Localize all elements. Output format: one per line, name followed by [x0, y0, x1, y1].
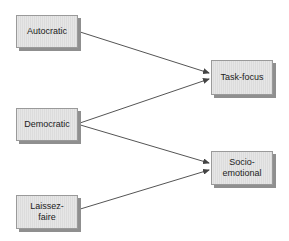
edge-democratic-socio-emotional	[77, 124, 209, 163]
node-label: Autocratic	[27, 26, 67, 37]
node-label: Socio- emotional	[222, 157, 261, 179]
node-democratic: Democratic	[16, 108, 78, 141]
node-laissez-faire: Laissez- faire	[16, 195, 78, 229]
node-socio-emotional: Socio- emotional	[211, 151, 273, 185]
edge-democratic-task-focus	[77, 79, 209, 124]
node-label: Laissez- faire	[30, 201, 64, 223]
edge-autocratic-task-focus	[77, 31, 209, 73]
edge-laissez-faire-socio-emotional	[77, 170, 209, 210]
node-label: Task-focus	[220, 72, 263, 83]
node-label: Democratic	[24, 119, 70, 130]
node-task-focus: Task-focus	[211, 60, 273, 95]
node-autocratic: Autocratic	[16, 15, 78, 48]
